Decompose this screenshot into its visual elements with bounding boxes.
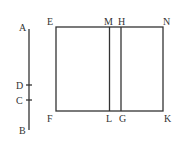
label-a: A (19, 22, 27, 33)
label-m: M (104, 16, 113, 27)
label-d: D (16, 80, 23, 91)
label-b: B (19, 125, 26, 136)
label-l: L (106, 113, 112, 124)
label-n: N (163, 16, 170, 27)
label-c: C (16, 95, 23, 106)
label-e: E (47, 16, 53, 27)
label-h: H (118, 16, 125, 27)
geometry-diagram: A D C B E M H N F L G K (0, 0, 179, 145)
label-k: K (164, 113, 172, 124)
label-f: F (47, 113, 53, 124)
label-g: G (119, 113, 126, 124)
